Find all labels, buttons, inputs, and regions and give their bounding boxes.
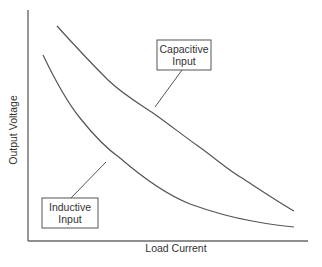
inductive-label-line1: Inductive: [49, 201, 91, 213]
inductive-input-callout: Inductive Input: [42, 162, 106, 228]
inductive-leader-line: [71, 162, 106, 198]
capacitive-leader-line: [155, 70, 182, 107]
capacitive-label-line2: Input: [172, 55, 195, 67]
output-voltage-vs-load-current-diagram: Output Voltage Load Current Capacitive I…: [0, 0, 322, 267]
x-axis-title: Load Current: [145, 242, 206, 254]
capacitive-label-line1: Capacitive: [159, 43, 208, 55]
capacitive-input-callout: Capacitive Input: [155, 40, 211, 107]
inductive-label-line2: Input: [58, 213, 81, 225]
y-axis-title: Output Voltage: [7, 95, 19, 165]
